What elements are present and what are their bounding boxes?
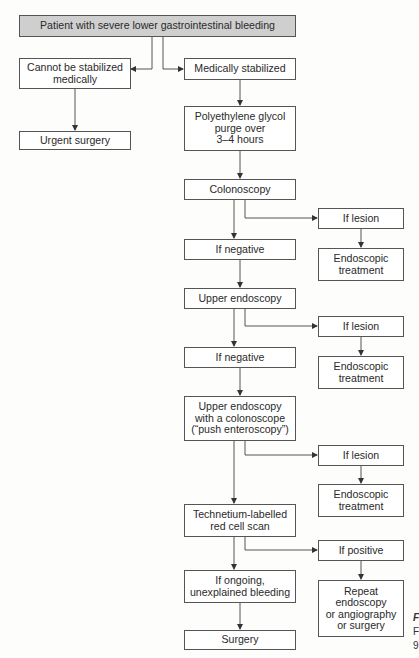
node-unstable: Cannot be stabilized medically (19, 58, 131, 89)
node-positive: If positive (318, 540, 404, 561)
node-negative-1: If negative (184, 239, 296, 260)
node-stabilized: Medically stabilized (184, 58, 296, 80)
caption-fragment: F (413, 612, 419, 623)
node-push-enteroscopy: Upper endoscopy with a colonoscope (“pus… (184, 396, 296, 441)
node-urgent-surgery: Urgent surgery (19, 131, 131, 150)
node-treatment-1: Endoscopic treatment (318, 248, 404, 281)
node-repeat: Repeat endoscopy or angiography or surge… (318, 580, 404, 637)
node-lesion-3: If lesion (318, 445, 404, 466)
node-treatment-3: Endoscopic treatment (318, 484, 404, 517)
node-technetium-scan: Technetium-labelled red cell scan (184, 504, 296, 537)
node-upper-endoscopy: Upper endoscopy (184, 288, 296, 309)
node-start: Patient with severe lower gastrointestin… (19, 15, 296, 37)
node-colonoscopy: Colonoscopy (184, 179, 296, 200)
caption-fragment: F (413, 626, 419, 637)
node-ongoing-bleeding: If ongoing, unexplained bleeding (184, 570, 296, 603)
node-lesion-2: If lesion (318, 316, 404, 337)
caption-fragment: 9 (413, 640, 419, 651)
node-lesion-1: If lesion (318, 208, 404, 229)
node-negative-2: If negative (184, 347, 296, 368)
node-treatment-2: Endoscopic treatment (318, 356, 404, 389)
node-surgery: Surgery (184, 630, 296, 650)
node-peg-purge: Polyethylene glycol purge over 3–4 hours (184, 106, 296, 151)
